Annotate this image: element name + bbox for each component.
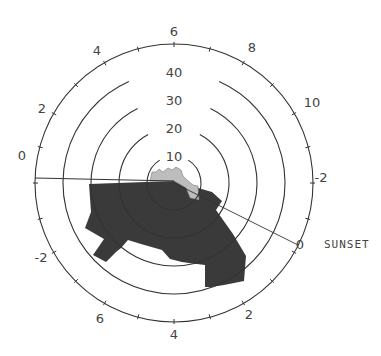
ring-labels: 10203040 [166,65,183,164]
ring-label: 40 [166,65,183,80]
angular-tick-label: 0 [296,237,304,252]
sunset-label: SUNSET [324,238,370,251]
tick-mark [38,218,43,219]
polar-chart: 10203040 6810-20246-2024 SUNSET [0,0,381,356]
tick-mark [138,314,139,319]
tick-mark [38,147,43,148]
angular-tick-label: 6 [170,24,178,39]
ring-label: 20 [166,121,183,136]
angular-tick-label: 0 [18,148,26,163]
angular-tick-label: 4 [170,327,178,342]
tick-mark [305,147,310,148]
ring-label: 30 [166,93,183,108]
angular-tick-label: 2 [38,101,46,116]
tick-mark [305,218,310,219]
angular-tick-label: -2 [315,170,328,185]
tick-mark [209,47,210,52]
data-sectors [85,167,246,287]
angular-tick-label: -2 [35,250,48,265]
angular-tick-label: 2 [245,307,253,322]
angular-tick-label: 6 [96,311,104,326]
tick-mark [138,47,139,52]
angular-tick-label: 10 [304,95,321,110]
angular-tick-label: 8 [248,40,256,55]
ring-label: 10 [166,149,183,164]
angular-tick-label: 4 [93,43,101,58]
tick-mark [209,314,210,319]
